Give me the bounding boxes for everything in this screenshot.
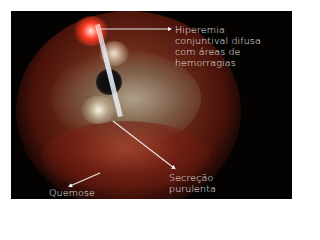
label-line: purulenta bbox=[169, 183, 216, 194]
label-line: Quemose bbox=[49, 187, 95, 198]
label-secrecao: Secreção purulenta bbox=[169, 172, 216, 194]
label-line: conjuntival difusa bbox=[175, 35, 261, 46]
label-line: com áreas de bbox=[175, 46, 261, 57]
arrow-quemose bbox=[70, 173, 100, 186]
arrow-secrecao bbox=[113, 121, 174, 168]
label-line: Secreção bbox=[169, 172, 216, 183]
label-line: hemorragias bbox=[175, 57, 261, 68]
label-line: Hiperemia bbox=[175, 24, 261, 35]
label-hiperemia: Hiperemia conjuntival difusa com áreas d… bbox=[175, 24, 261, 68]
label-quemose: Quemose bbox=[49, 187, 95, 198]
